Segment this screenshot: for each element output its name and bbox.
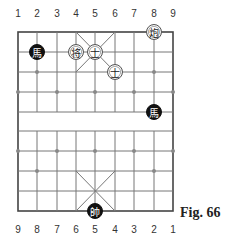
file-label-bottom: 7 xyxy=(51,224,63,235)
red-cannon-piece[interactable]: 炮 xyxy=(146,24,162,40)
file-label-top: 8 xyxy=(148,8,160,19)
file-label-top: 7 xyxy=(128,8,140,19)
red-general-piece[interactable]: 将 xyxy=(68,44,84,60)
file-label-bottom: 3 xyxy=(128,224,140,235)
file-label-bottom: 6 xyxy=(70,224,82,235)
file-label-top: 9 xyxy=(167,8,179,19)
file-label-top: 4 xyxy=(70,8,82,19)
file-label-top: 1 xyxy=(12,8,24,19)
red-advisor-piece[interactable]: 士 xyxy=(107,64,123,80)
file-label-top: 2 xyxy=(31,8,43,19)
file-label-bottom: 1 xyxy=(167,224,179,235)
red-advisor-piece[interactable]: 士 xyxy=(87,44,103,60)
black-king-piece[interactable]: 帥 xyxy=(87,203,103,219)
file-label-bottom: 8 xyxy=(31,224,43,235)
black-horse-piece[interactable]: 馬 xyxy=(29,44,45,60)
file-label-top: 5 xyxy=(89,8,101,19)
file-label-bottom: 2 xyxy=(148,224,160,235)
file-label-bottom: 9 xyxy=(12,224,24,235)
file-label-top: 6 xyxy=(109,8,121,19)
file-label-bottom: 4 xyxy=(109,224,121,235)
figure-caption: Fig. 66 xyxy=(180,205,220,221)
file-label-bottom: 5 xyxy=(89,224,101,235)
black-horse-piece[interactable]: 馬 xyxy=(146,104,162,120)
file-label-top: 3 xyxy=(51,8,63,19)
